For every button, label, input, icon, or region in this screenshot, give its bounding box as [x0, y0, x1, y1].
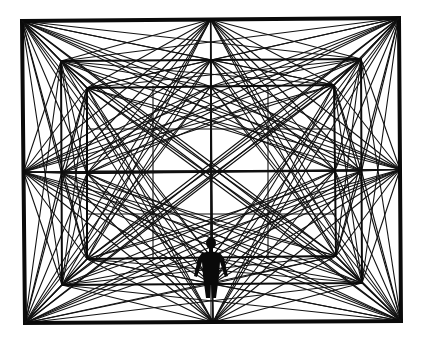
line-segment [24, 20, 211, 173]
line-segment [22, 21, 87, 88]
line-segment [62, 173, 88, 174]
line-segment [336, 18, 399, 256]
line-segment [211, 20, 401, 170]
line-segment [25, 88, 87, 323]
line-segment [24, 172, 63, 285]
line-art-illustration [0, 0, 423, 343]
